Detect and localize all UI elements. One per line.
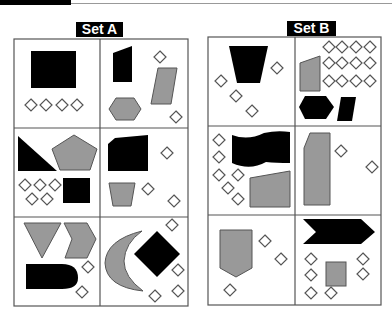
set-b-label: Set B [287,21,336,36]
panel-a5 [24,223,96,298]
panel-a3 [18,135,97,205]
panel-a1 [25,51,83,111]
panel-b2 [299,41,376,121]
set-a-label: Set A [76,22,123,37]
panel-a4 [108,135,180,207]
puzzle-figure [0,0,392,323]
panel-b1 [215,46,283,117]
panel-b3 [213,131,290,207]
panel-b6 [303,219,375,299]
panel-b5 [220,230,287,296]
panel-a2 [109,46,182,123]
panel-a6 [105,219,184,302]
panel-b4 [304,133,378,205]
